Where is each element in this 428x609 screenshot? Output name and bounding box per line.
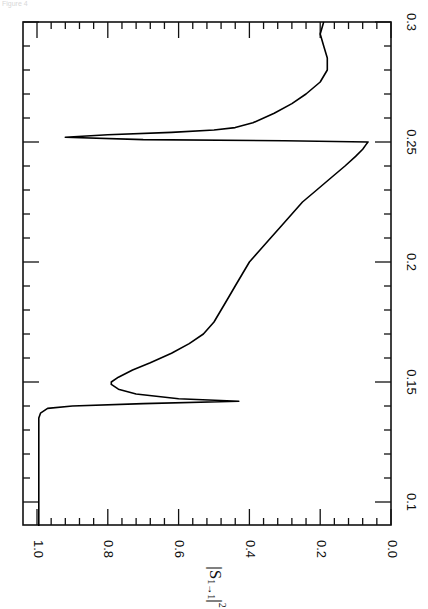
plot-frame [23,22,391,525]
y-tick-label: 0.6 [172,540,187,558]
y-axis-label-group: |S1→1|2 [206,566,228,607]
x-tick-label: 0.15 [404,369,419,394]
y-tick-label: 0.4 [243,540,258,558]
axis-tick-labels: 0.10.150.20.250.30.00.20.40.60.81.0 [31,13,419,558]
series-line [39,22,368,526]
plot-border [23,22,391,525]
y-tick-label: 1.0 [31,540,46,558]
y-axis-label-text: |S1→1|2 [206,566,228,607]
rotated-line-chart: 0.10.150.20.250.30.00.20.40.60.81.0 |S1→… [0,0,428,609]
axis-ticks [23,22,391,525]
x-tick-label: 0.2 [404,253,419,271]
y-tick-label: 0.0 [385,540,400,558]
x-tick-label: 0.25 [404,129,419,154]
y-tick-label: 0.2 [314,540,329,558]
y-tick-label: 0.8 [101,540,116,558]
data-curve [39,22,368,526]
x-tick-label: 0.3 [404,13,419,31]
x-tick-label: 0.1 [404,493,419,511]
y-axis-label: |S1→1|2 [206,566,228,607]
